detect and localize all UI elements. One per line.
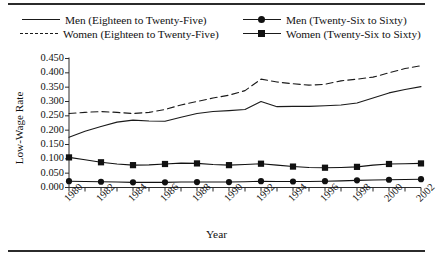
x-tick-label: 1990	[222, 181, 244, 203]
x-tick-label: 1980	[62, 181, 84, 203]
x-tick-label: 1998	[350, 181, 372, 203]
x-tick-label: 1984	[126, 181, 148, 203]
x-tick-label: 2000	[382, 181, 404, 203]
x-tick-label: 2002	[414, 181, 436, 203]
y-axis-title: Low-Wage Rate	[13, 68, 25, 188]
x-tick-label: 1982	[94, 181, 116, 203]
x-tick-label: 1992	[254, 181, 276, 203]
x-axis-title: Year	[0, 228, 433, 240]
x-tick-label: 1986	[158, 181, 180, 203]
x-tick-label: 1996	[318, 181, 340, 203]
x-tick-label: 1994	[286, 181, 308, 203]
x-tick-label: 1988	[190, 181, 212, 203]
